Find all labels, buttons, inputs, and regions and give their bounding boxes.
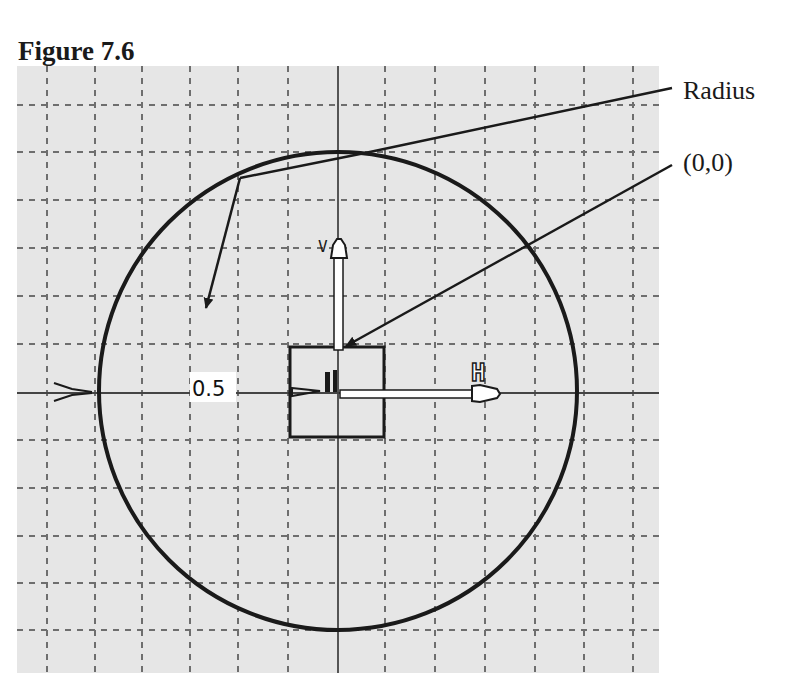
radius-callout: Radius	[683, 76, 755, 106]
origin-callout: (0,0)	[683, 148, 733, 178]
h-axis-label: H	[471, 359, 485, 387]
sketch-canvas[interactable]: 0.5 V H	[0, 0, 785, 697]
v-axis-label: V	[318, 237, 328, 256]
dimension-value[interactable]: 0.5	[192, 377, 225, 401]
